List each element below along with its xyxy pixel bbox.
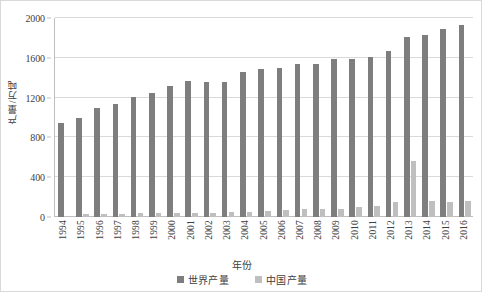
bar-中国产量-2016: [465, 201, 471, 217]
bar-group: [365, 18, 383, 217]
bar-世界产量-1999: [149, 93, 155, 217]
x-tick-label: 2002: [204, 220, 214, 240]
y-tick-mark: [47, 18, 51, 19]
bar-中国产量-2001: [192, 213, 198, 217]
x-tick-label: 2016: [459, 220, 469, 240]
bar-世界产量-2008: [313, 64, 319, 217]
x-tick-label: 1995: [76, 220, 86, 240]
bar-group: [310, 18, 328, 217]
bar-中国产量-1999: [156, 213, 162, 217]
bar-中国产量-2002: [210, 213, 216, 217]
bar-世界产量-1995: [76, 118, 82, 218]
bar-中国产量-1997: [119, 214, 125, 217]
bar-世界产量-2006: [277, 68, 283, 217]
bar-中国产量-2003: [229, 212, 235, 217]
x-tick-label: 1996: [95, 220, 105, 240]
bar-group: [73, 18, 91, 217]
bar-group: [328, 18, 346, 217]
legend-swatch-icon: [177, 276, 184, 283]
bar-中国产量-1995: [83, 214, 89, 217]
bar-group: [237, 18, 255, 217]
x-tick-label: 2005: [259, 220, 269, 240]
bar-世界产量-2014: [422, 35, 428, 217]
x-tick-label: 1997: [113, 220, 123, 240]
bar-世界产量-2001: [185, 81, 191, 217]
bar-世界产量-2012: [386, 51, 392, 217]
bar-世界产量-2016: [459, 25, 465, 217]
y-tick-label: 800: [30, 132, 45, 143]
y-tick-mark: [47, 97, 51, 98]
bar-中国产量-2011: [374, 206, 380, 217]
y-tick-mark: [47, 177, 51, 178]
bar-group: [438, 18, 456, 217]
bar-group: [292, 18, 310, 217]
bar-世界产量-2011: [368, 57, 374, 217]
bar-中国产量-2004: [247, 212, 253, 217]
bar-世界产量-2010: [349, 59, 355, 217]
y-tick-label: 400: [30, 172, 45, 183]
bar-group: [164, 18, 182, 217]
bar-世界产量-1994: [58, 123, 64, 217]
legend-label: 中国产量: [266, 272, 307, 287]
bar-世界产量-2003: [222, 82, 228, 217]
chart-figure: 产量/万吨 0400800120016002000 19941995199619…: [0, 0, 482, 292]
bar-世界产量-1998: [131, 97, 137, 217]
bar-中国产量-2000: [174, 213, 180, 217]
legend-entry-世界产量[interactable]: 世界产量: [177, 272, 229, 287]
bar-世界产量-1997: [113, 104, 119, 217]
bar-中国产量-1998: [138, 213, 144, 217]
bar-世界产量-2007: [295, 64, 301, 217]
bar-group: [55, 18, 73, 217]
x-tick-label: 2004: [240, 220, 250, 240]
x-tick-label: 1999: [149, 220, 159, 240]
y-axis-tick-labels: 0400800120016002000: [1, 1, 54, 292]
y-tick-label: 1200: [25, 92, 45, 103]
y-tick-label: 2000: [25, 13, 45, 24]
x-tick-label: 2000: [167, 220, 177, 240]
bar-世界产量-2002: [204, 82, 210, 217]
x-tick-label: 1994: [58, 220, 68, 240]
bar-世界产量-2013: [404, 37, 410, 217]
bar-中国产量-2013: [411, 161, 417, 217]
bar-group: [456, 18, 474, 217]
x-tick-label: 2009: [331, 220, 341, 240]
y-tick-mark: [47, 57, 51, 58]
bar-group: [128, 18, 146, 217]
bar-中国产量-2005: [265, 211, 271, 217]
bar-世界产量-2004: [240, 72, 246, 217]
x-tick-label: 2006: [277, 220, 287, 240]
bar-group: [219, 18, 237, 217]
bar-group: [419, 18, 437, 217]
bar-中国产量-2015: [447, 202, 453, 217]
bar-group: [201, 18, 219, 217]
y-tick-mark: [47, 217, 51, 218]
bar-group: [383, 18, 401, 217]
x-tick-label: 2012: [386, 220, 396, 240]
legend-entry-中国产量[interactable]: 中国产量: [255, 272, 307, 287]
plot-area: [54, 18, 473, 217]
x-axis-title: 年份: [1, 257, 482, 272]
x-tick-label: 2011: [368, 220, 378, 239]
bar-group: [401, 18, 419, 217]
bar-group: [255, 18, 273, 217]
bar-group: [91, 18, 109, 217]
bar-中国产量-2007: [302, 209, 308, 217]
bar-中国产量-2014: [429, 201, 435, 217]
bar-中国产量-2009: [338, 209, 344, 217]
bar-世界产量-2009: [331, 59, 337, 217]
y-tick-label: 1600: [25, 52, 45, 63]
bar-世界产量-2000: [167, 86, 173, 217]
bar-group: [346, 18, 364, 217]
bar-世界产量-1996: [94, 108, 100, 217]
y-tick-mark: [47, 137, 51, 138]
x-tick-label: 2013: [404, 220, 414, 240]
bar-中国产量-2012: [393, 202, 399, 217]
chart-legend: 世界产量中国产量: [1, 272, 482, 287]
legend-swatch-icon: [255, 276, 262, 283]
y-tick-label: 0: [40, 212, 45, 223]
bar-中国产量-2008: [320, 209, 326, 217]
x-tick-label: 1998: [131, 220, 141, 240]
x-tick-label: 2003: [222, 220, 232, 240]
x-tick-label: 2014: [422, 220, 432, 240]
bar-中国产量-1996: [101, 214, 107, 217]
